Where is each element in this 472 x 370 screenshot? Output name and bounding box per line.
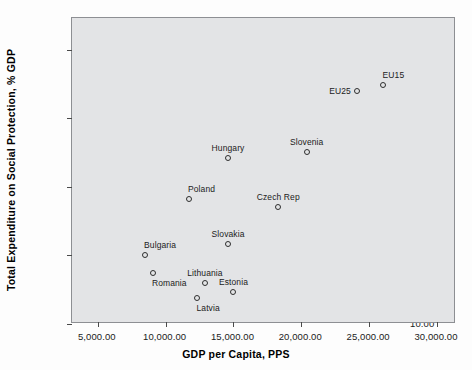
data-point-marker[interactable] — [225, 241, 231, 247]
y-tick-mark — [67, 187, 72, 188]
y-axis-title-container: Total Expenditure on Social Protection, … — [0, 0, 22, 340]
data-point-label: Lithuania — [187, 268, 222, 278]
data-point-marker[interactable] — [202, 280, 208, 286]
scatter-plot-figure: Total Expenditure on Social Protection, … — [0, 0, 472, 370]
x-tick-mark — [437, 322, 438, 327]
x-tick-label: 30,000.00 — [414, 331, 457, 342]
x-tick-label: 20,000.00 — [279, 331, 322, 342]
data-point-marker[interactable] — [150, 270, 156, 276]
data-point-marker[interactable] — [186, 196, 192, 202]
data-point-label: Latvia — [196, 303, 219, 313]
data-point-marker[interactable] — [230, 289, 236, 295]
data-point-label: Slovakia — [212, 229, 245, 239]
plot-area: EU15EU25SloveniaHungaryPolandCzech RepSl… — [71, 17, 455, 323]
data-point-label: EU15 — [383, 70, 405, 80]
data-point-label: Poland — [188, 184, 215, 194]
x-tick-label: 25,000.00 — [347, 331, 390, 342]
y-tick-mark — [67, 324, 72, 325]
x-tick-mark — [369, 322, 370, 327]
data-point-label: Czech Rep — [257, 192, 300, 202]
y-axis-title: Total Expenditure on Social Protection, … — [5, 49, 17, 291]
data-point-marker[interactable] — [380, 82, 386, 88]
data-point-label: Estonia — [219, 277, 248, 287]
data-point-label: Romania — [152, 278, 187, 288]
data-point-marker[interactable] — [194, 295, 200, 301]
x-tick-label: 15,000.00 — [211, 331, 254, 342]
data-point-marker[interactable] — [225, 155, 231, 161]
data-point-marker[interactable] — [304, 149, 310, 155]
data-point-marker[interactable] — [354, 88, 360, 94]
y-tick-mark — [67, 118, 72, 119]
data-point-label: Hungary — [212, 143, 245, 153]
data-point-marker[interactable] — [275, 204, 281, 210]
x-tick-label: 10,000.00 — [143, 331, 186, 342]
data-point-label: EU25 — [329, 86, 351, 96]
x-tick-label: 5,000.00 — [78, 331, 116, 342]
data-point-label: Bulgaria — [144, 240, 176, 250]
x-tick-mark — [233, 322, 234, 327]
x-tick-mark — [166, 322, 167, 327]
y-tick-mark — [67, 255, 72, 256]
data-point-marker[interactable] — [142, 252, 148, 258]
y-tick-mark — [67, 50, 72, 51]
x-tick-mark — [98, 322, 99, 327]
x-tick-mark — [301, 322, 302, 327]
data-point-label: Slovenia — [290, 137, 323, 147]
x-axis-title: GDP per Capita, PPS — [0, 348, 472, 360]
